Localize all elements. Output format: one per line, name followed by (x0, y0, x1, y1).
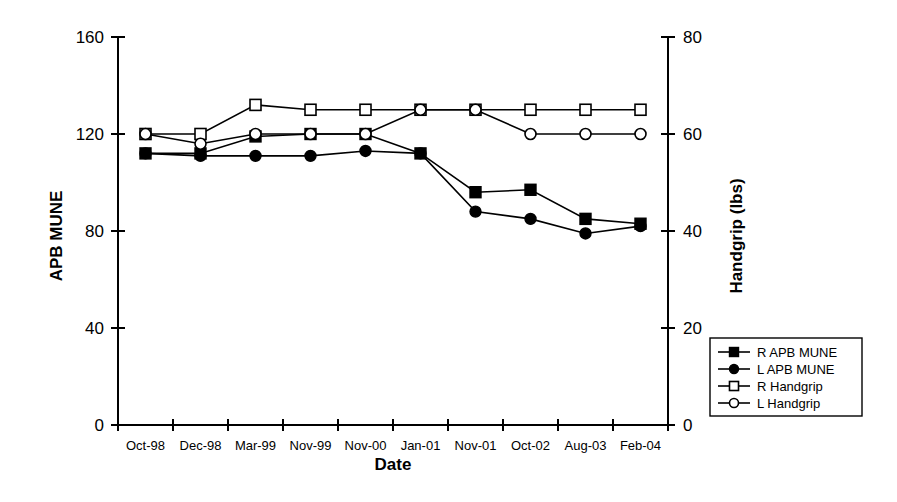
x-axis: Oct-98Dec-98Mar-99Nov-99Nov-00Jan-01Nov-… (118, 419, 668, 453)
data-point-filled-square (525, 184, 536, 195)
data-point-open-circle (470, 104, 481, 115)
data-point-filled-square (580, 213, 591, 224)
data-point-open-square (635, 104, 646, 115)
data-point-open-circle (140, 129, 151, 140)
x-axis-label: Date (375, 455, 412, 474)
series-2 (140, 145, 646, 238)
data-point-filled-circle (635, 221, 646, 232)
data-point-open-circle (250, 129, 261, 140)
series-line (146, 151, 641, 233)
data-point-open-circle (195, 138, 206, 149)
x-axis-tick-label: Nov-99 (290, 438, 332, 453)
right-axis-tick-label: 40 (683, 222, 702, 241)
right-axis: 020406080 (661, 28, 702, 435)
data-point-open-circle (525, 129, 536, 140)
dual-axis-line-chart: 04080120160 020406080 Oct-98Dec-98Mar-99… (0, 0, 897, 502)
left-axis-tick-label: 0 (95, 416, 104, 435)
series-layer (140, 99, 646, 239)
left-axis-tick-label: 40 (85, 319, 104, 338)
y-axis-label: APB MUNE (47, 191, 66, 282)
data-point-filled-circle (140, 148, 151, 159)
y2-axis-label: Handgrip (lbs) (727, 178, 746, 293)
series-1 (140, 129, 646, 230)
left-axis-tick-label: 80 (85, 222, 104, 241)
data-point-open-square (250, 99, 261, 110)
data-point-filled-circle (729, 364, 738, 373)
data-point-open-circle (305, 129, 316, 140)
data-point-open-circle (635, 129, 646, 140)
left-axis-tick-label: 160 (76, 28, 104, 47)
data-point-filled-circle (470, 206, 481, 217)
data-point-open-circle (580, 129, 591, 140)
right-axis-tick-label: 20 (683, 319, 702, 338)
data-point-filled-circle (415, 148, 426, 159)
data-point-filled-circle (250, 150, 261, 161)
data-point-open-square (305, 104, 316, 115)
x-axis-tick-label: Jan-01 (401, 438, 441, 453)
data-point-filled-circle (305, 150, 316, 161)
chart-legend: R APB MUNEL APB MUNER HandgripL Handgrip (710, 338, 862, 416)
x-axis-tick-label: Aug-03 (565, 438, 607, 453)
data-point-open-circle (360, 129, 371, 140)
data-point-filled-circle (360, 145, 371, 156)
x-axis-tick-label: Mar-99 (235, 438, 276, 453)
data-point-filled-square (470, 187, 481, 198)
left-axis: 04080120160 (76, 28, 125, 435)
data-point-open-square (580, 104, 591, 115)
x-axis-tick-label: Dec-98 (180, 438, 222, 453)
data-point-open-square (360, 104, 371, 115)
data-point-filled-circle (195, 150, 206, 161)
data-point-filled-circle (525, 213, 536, 224)
x-axis-tick-label: Nov-01 (455, 438, 497, 453)
x-axis-tick-label: Oct-98 (126, 438, 165, 453)
data-point-open-square (729, 381, 738, 390)
left-axis-tick-label: 120 (76, 125, 104, 144)
right-axis-tick-label: 80 (683, 28, 702, 47)
series-line (146, 105, 641, 134)
legend-label: L APB MUNE (757, 362, 835, 377)
right-axis-tick-label: 60 (683, 125, 702, 144)
right-axis-tick-label: 0 (683, 416, 692, 435)
data-point-filled-square (729, 347, 738, 356)
legend-label: R Handgrip (757, 379, 823, 394)
series-line (146, 134, 641, 224)
legend-label: R APB MUNE (757, 345, 838, 360)
data-point-open-circle (415, 104, 426, 115)
legend-label: L Handgrip (757, 396, 820, 411)
data-point-filled-circle (580, 228, 591, 239)
x-axis-tick-label: Feb-04 (620, 438, 661, 453)
x-axis-tick-label: Nov-00 (345, 438, 387, 453)
x-axis-tick-label: Oct-02 (511, 438, 550, 453)
data-point-open-square (525, 104, 536, 115)
chart-figure: 04080120160 020406080 Oct-98Dec-98Mar-99… (0, 0, 897, 502)
series-line (146, 110, 641, 144)
data-point-open-circle (729, 398, 738, 407)
